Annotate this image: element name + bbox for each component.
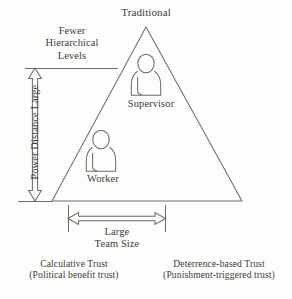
calculative-trust-caption: Calculative Trust (Political benefit tru… bbox=[11, 258, 137, 281]
worker-person-icon bbox=[86, 130, 115, 171]
deterrence-trust-caption: Deterrence-based Trust (Punishment-trigg… bbox=[148, 258, 290, 281]
worker-label: Worker bbox=[63, 173, 143, 185]
supervisor-label: Supervisor bbox=[106, 98, 196, 110]
traditional-hierarchy-diagram: Traditional Fewer Hierarchical Levels Po… bbox=[0, 0, 292, 299]
team-size-label: Large Team Size bbox=[76, 226, 158, 251]
power-distance-label: Power Distance Large bbox=[29, 57, 41, 207]
team-size-double-arrow bbox=[68, 213, 166, 225]
supervisor-person-icon bbox=[131, 54, 160, 95]
diagram-title: Traditional bbox=[96, 6, 196, 19]
